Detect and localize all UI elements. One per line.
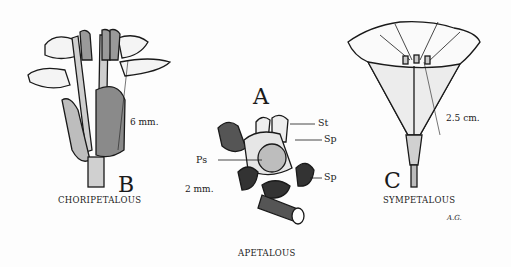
figure-c-caption: SYMPETALOUS (383, 195, 455, 205)
figure-a-scale: 2 mm. (185, 184, 214, 194)
part-label-st: St (318, 117, 328, 128)
figure-b-caption: CHORIPETALOUS (58, 195, 141, 205)
figure-c-letter: C (384, 168, 401, 193)
figure-c-scale: 2.5 cm. (446, 113, 480, 123)
figure-a-caption: APETALOUS (238, 248, 296, 258)
part-label-ps: Ps (196, 154, 207, 165)
part-label-sp-upper: Sp (324, 133, 337, 144)
botanical-illustration: B CHORIPETALOUS 6 mm. A APETALOUS 2 mm. … (0, 0, 511, 267)
figure-b-scale: 6 mm. (130, 117, 159, 127)
part-label-sp-lower: Sp (324, 171, 337, 182)
choripetalous-flower-drawing (28, 30, 170, 188)
sympetalous-flower-drawing (348, 22, 480, 187)
apetalous-flower-drawing (218, 115, 314, 224)
flower-drawings (0, 0, 511, 267)
figure-b-letter: B (118, 172, 134, 197)
figure-a-letter: A (253, 84, 269, 109)
artist-signature: A.G. (447, 214, 462, 222)
